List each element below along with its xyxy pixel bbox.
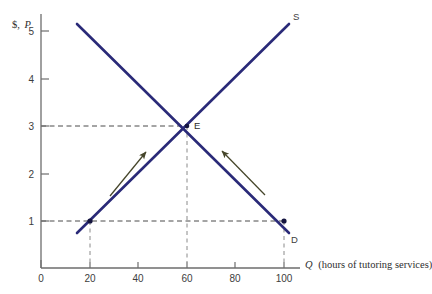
y-tick-label-2: 2 — [28, 169, 34, 180]
supply-point-20-1-marker — [87, 218, 92, 223]
chart-background — [0, 0, 432, 294]
x-tick-label-0: 0 — [38, 273, 44, 284]
supply-curve-label: S — [293, 11, 299, 22]
x-tick-label-60: 60 — [181, 273, 193, 284]
x-tick-label-20: 20 — [84, 273, 96, 284]
x-axis-title: Q (hours of tutoring services) — [305, 259, 432, 271]
x-tick-label-100: 100 — [276, 273, 293, 284]
y-axis-title-currency: $, — [12, 19, 20, 30]
y-tick-label-4: 4 — [28, 74, 34, 85]
x-tick-label-40: 40 — [132, 273, 144, 284]
equilibrium-point-marker — [185, 124, 190, 129]
y-axis-title-symbol: P — [24, 19, 32, 30]
demand-point-100-1-marker — [281, 218, 286, 223]
chart-canvas: 5 4 3 2 1 0 20 40 60 80 100 $, — [0, 0, 432, 294]
y-tick-label-1: 1 — [28, 216, 34, 227]
x-axis-title-rest: (hours of tutoring services) — [318, 259, 432, 271]
equilibrium-label: E — [194, 120, 200, 131]
y-tick-label-3: 3 — [28, 121, 34, 132]
supply-demand-chart: 5 4 3 2 1 0 20 40 60 80 100 $, — [0, 0, 432, 294]
x-axis-title-symbol: Q — [305, 259, 313, 270]
y-axis-title: $, P — [12, 19, 32, 30]
x-tick-label-80: 80 — [229, 273, 241, 284]
demand-curve-label: D — [291, 234, 298, 245]
